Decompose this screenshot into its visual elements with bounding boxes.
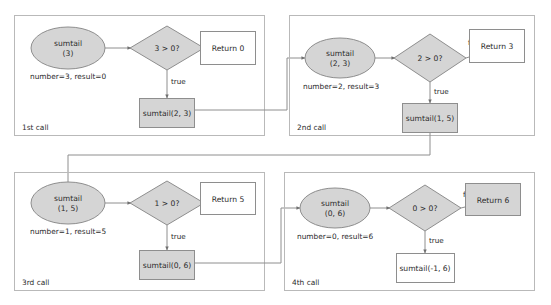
recursive-call-label-call-2: sumtail(1, 5) [406,114,454,123]
panel-caption-call-3: 3rd call [22,278,49,287]
edge-label-true-call-2: true [434,87,449,96]
panel-caption-call-4: 4th call [292,278,319,287]
state-note-call-4: number=0, result=6 [297,232,374,241]
edge-label-true-call-3: true [171,232,186,241]
start-node-label-line1: sumtail [321,199,349,208]
flowchart-svg: sumtail (3) number=3, result=0 3 > 0? fa… [0,0,551,305]
state-note-call-1: number=3, result=0 [30,72,107,81]
edge-label-true-call-1: true [171,77,186,86]
diagram-canvas: sumtail (3) number=3, result=0 3 > 0? fa… [0,0,551,305]
start-node-label-line2: (2, 3) [330,59,350,68]
start-node-label-line1: sumtail [54,39,82,48]
edge-label-true-call-4: true [429,236,444,245]
start-node-label-line2: (3) [63,49,74,58]
recursive-call-label-call-4: sumtail(-1, 6) [399,264,450,273]
decision-label-call-2: 2 > 0? [418,54,443,63]
recursive-call-label-call-3: sumtail(0, 6) [143,261,191,270]
decision-label-call-3: 1 > 0? [155,199,180,208]
start-node-label-line2: (1, 5) [58,204,78,213]
panel-caption-call-1: 1st call [22,123,49,132]
start-node-label-line2: (0, 6) [325,209,345,218]
panel-caption-call-2: 2nd call [297,123,326,132]
start-node-label-line1: sumtail [54,194,82,203]
start-node-label-line1: sumtail [326,49,354,58]
return-label-call-2: Return 3 [481,42,514,51]
connector-call1-to-call2 [195,58,305,110]
recursive-call-label-call-1: sumtail(2, 3) [143,109,191,118]
return-label-call-3: Return 5 [212,195,245,204]
panel-call-3: sumtail (1, 5) number=1, result=5 1 > 0?… [15,173,265,291]
decision-label-call-4: 0 > 0? [413,204,438,213]
panel-call-4: sumtail (0, 6) number=0, result=6 0 > 0?… [285,173,535,291]
state-note-call-3: number=1, result=5 [30,227,107,236]
panel-call-1: sumtail (3) number=3, result=0 3 > 0? fa… [15,16,265,136]
panel-call-2: sumtail (2, 3) number=2, result=3 2 > 0?… [290,16,535,136]
connector-call2-to-call3 [68,132,430,190]
decision-label-call-1: 3 > 0? [155,44,180,53]
return-label-call-4: Return 6 [477,196,510,205]
return-label-call-1: Return 0 [212,44,245,53]
state-note-call-2: number=2, result=3 [303,82,380,91]
